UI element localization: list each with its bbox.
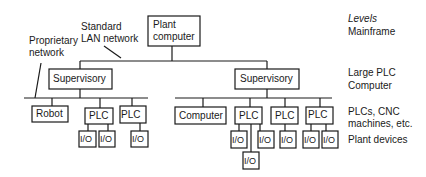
plc-right-3-label: PLC	[308, 109, 327, 121]
level-plant-devices: Plant devices	[348, 134, 407, 146]
level-plcs-line2: machines, etc.	[348, 118, 412, 130]
robot-label: Robot	[36, 108, 63, 120]
standard-lan-label-line2: LAN network	[81, 33, 138, 45]
plant-computer-label-line1: Plant	[153, 19, 176, 31]
lan-pointer-line	[104, 46, 121, 58]
plc-right-1-label: PLC	[239, 110, 258, 122]
standard-lan-label-line1: Standard	[81, 21, 122, 33]
io-label: I/O	[100, 133, 112, 145]
proprietary-pointer-line	[35, 63, 41, 98]
io-label: I/O	[232, 134, 244, 146]
plc-left-1-label: PLC	[89, 110, 108, 122]
plant-computer-label-line2: computer	[153, 31, 195, 43]
io-label: I/O	[132, 133, 144, 145]
supervisory-left-label: Supervisory	[53, 73, 106, 85]
level-mainframe: Mainframe	[348, 26, 395, 38]
io-label: I/O	[281, 134, 293, 146]
io-label: I/O	[323, 134, 335, 146]
io-label: I/O	[304, 134, 316, 146]
proprietary-label-line2: network	[29, 47, 64, 59]
io-label: I/O	[80, 133, 92, 145]
plc-right-2-label: PLC	[275, 110, 294, 122]
level-plcs-line1: PLCs, CNC	[348, 106, 400, 118]
computer-label: Computer	[179, 110, 223, 122]
proprietary-label-line1: Proprietary	[29, 35, 78, 47]
network-hierarchy-diagram: Standard LAN network Proprietary network…	[0, 0, 426, 177]
levels-header: Levels	[348, 13, 377, 25]
plc-left-2-label: PLC	[121, 109, 140, 121]
supervisory-right-label: Supervisory	[240, 73, 293, 85]
level-large-plc-line2: Computer	[348, 80, 392, 92]
level-large-plc-line1: Large PLC	[348, 67, 396, 79]
io-label: I/O	[244, 155, 256, 167]
io-label: I/O	[259, 134, 271, 146]
